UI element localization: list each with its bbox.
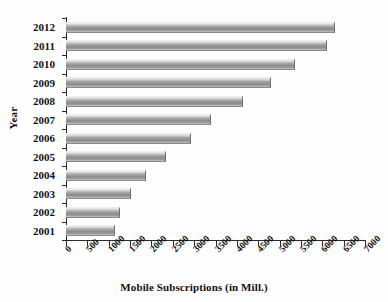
bar-row <box>66 129 365 148</box>
y-axis-tick-label: 2001 <box>0 222 62 241</box>
bar <box>66 188 131 199</box>
bar <box>66 114 211 125</box>
y-axis-tick-label: 2011 <box>0 37 62 56</box>
y-axis-tick-label: 2006 <box>0 129 62 148</box>
bar-row <box>66 18 365 37</box>
bar-row <box>66 74 365 93</box>
y-axis-tick-label: 2007 <box>0 111 62 130</box>
bar <box>66 96 243 107</box>
bar-row <box>66 111 365 130</box>
y-axis-tick-label: 2012 <box>0 18 62 37</box>
y-axis-tick-label: 2002 <box>0 203 62 222</box>
x-axis-tick-labels: 0500100015002000250030003500400045005000… <box>66 247 376 277</box>
bar <box>66 225 115 236</box>
x-axis-title: Mobile Subscriptions (in Mill.) <box>0 281 388 293</box>
bar <box>66 77 271 88</box>
bar-row <box>66 148 365 167</box>
y-axis-tick-label: 2005 <box>0 148 62 167</box>
bar <box>66 207 120 218</box>
bar <box>66 22 335 33</box>
bar <box>66 151 166 162</box>
bars-container <box>66 18 365 240</box>
y-axis-tick-label: 2010 <box>0 55 62 74</box>
bar-row <box>66 92 365 111</box>
bar-row <box>66 203 365 222</box>
y-axis-tick-label: 2003 <box>0 185 62 204</box>
bar-row <box>66 185 365 204</box>
bar <box>66 170 146 181</box>
y-axis-tick-label: 2009 <box>0 74 62 93</box>
bar-row <box>66 55 365 74</box>
bar-chart: Year 20122011201020092008200720062005200… <box>0 0 388 302</box>
bar-row <box>66 166 365 185</box>
bar <box>66 40 327 51</box>
y-axis-tick-label: 2008 <box>0 92 62 111</box>
y-axis-tick-labels: 2012201120102009200820072006200520042003… <box>0 18 62 240</box>
y-axis-tick-label: 2004 <box>0 166 62 185</box>
x-axis-tick-label: 7000 <box>362 234 383 255</box>
bar <box>66 133 191 144</box>
bar-row <box>66 222 365 241</box>
bar <box>66 59 295 70</box>
bar-row <box>66 37 365 56</box>
